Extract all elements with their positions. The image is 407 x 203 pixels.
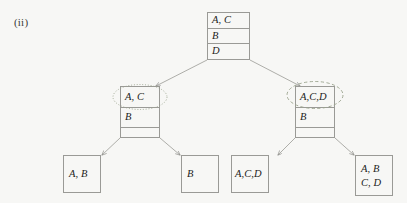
leaf-node-3-line-1: A,C,D <box>235 167 268 180</box>
root-node[interactable]: A, C B D <box>207 12 250 60</box>
left-branch-node-row-1: A, C <box>121 87 159 107</box>
leaf-node-3[interactable]: A,C,D <box>231 155 269 193</box>
leaf-node-4-line-1: A, B <box>361 162 392 175</box>
right-branch-node-row-3 <box>296 127 334 137</box>
root-node-row-2: B <box>208 28 249 44</box>
root-node-row-1: A, C <box>208 13 249 28</box>
left-branch-node-row-2: B <box>121 107 159 128</box>
figure-label: (ii) <box>14 16 28 28</box>
leaf-node-2[interactable]: B <box>181 155 219 193</box>
left-branch-node[interactable]: A, C B <box>120 86 160 138</box>
root-node-row-3: D <box>208 43 249 59</box>
left-branch-node-row-3 <box>121 127 159 137</box>
tree-diagram-figure: (ii) A, C B D A, C B A,C,D B <box>0 0 407 203</box>
edge-right-branch-to-leaf-3 <box>278 138 295 155</box>
edge-right-branch-to-leaf-4 <box>335 138 354 155</box>
leaf-node-4-line-2: C, D <box>361 176 392 189</box>
leaf-node-1-line-1: A, B <box>69 167 100 180</box>
leaf-node-1[interactable]: A, B <box>63 155 101 193</box>
edge-root-to-right-branch <box>250 60 300 86</box>
edge-left-branch-to-leaf-2 <box>160 138 180 155</box>
leaf-node-2-line-1: B <box>187 167 218 180</box>
right-branch-node-row-2: B <box>296 107 334 128</box>
right-branch-node-row-1: A,C,D <box>296 87 334 107</box>
edge-root-to-left-branch <box>156 60 207 86</box>
right-branch-node[interactable]: A,C,D B <box>295 86 335 138</box>
leaf-node-4[interactable]: A, B C, D <box>355 155 393 196</box>
edge-left-branch-to-leaf-1 <box>102 138 120 155</box>
